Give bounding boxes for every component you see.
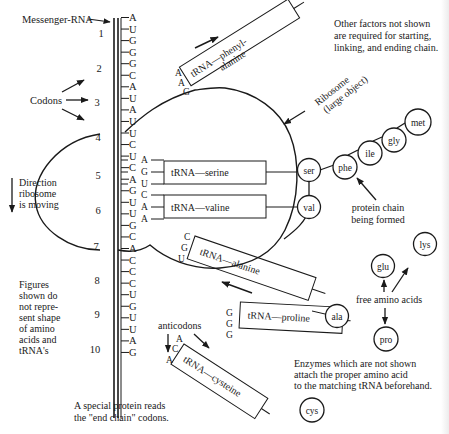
anticodon-serine: A G U bbox=[141, 155, 164, 189]
anticodons-label: anticodons bbox=[158, 320, 201, 331]
svg-text:3: 3 bbox=[94, 97, 99, 108]
svg-text:tRNA—proline: tRNA—proline bbox=[247, 309, 310, 323]
mrna-base: G bbox=[129, 185, 137, 196]
svg-text:G: G bbox=[181, 243, 188, 253]
svg-text:A: A bbox=[176, 334, 183, 344]
svg-text:ala: ala bbox=[331, 312, 343, 322]
svg-text:U: U bbox=[141, 179, 148, 189]
mrna-base: G bbox=[129, 58, 137, 69]
svg-text:to the matching tRNA beforehan: to the matching tRNA beforehand. bbox=[294, 380, 432, 391]
svg-text:6: 6 bbox=[95, 205, 100, 216]
mrna-base: A bbox=[129, 243, 137, 254]
svg-text:A: A bbox=[166, 355, 173, 365]
svg-text:9: 9 bbox=[94, 309, 99, 320]
mrna-base: U bbox=[129, 128, 137, 139]
codons-arrows-icon bbox=[62, 80, 88, 120]
factors-note: Other factors not shown are required for… bbox=[334, 18, 438, 53]
svg-text:C: C bbox=[184, 232, 190, 242]
svg-text:Figures: Figures bbox=[19, 279, 49, 290]
mrna-base: G bbox=[129, 347, 137, 358]
svg-text:Direction: Direction bbox=[19, 177, 57, 188]
direction-label: Direction ribosome is moving bbox=[19, 177, 59, 210]
mrna-base: U bbox=[129, 151, 137, 162]
trna-alanine: tRNA—alanine bbox=[187, 236, 329, 305]
svg-text:G: G bbox=[226, 330, 233, 340]
anticodon-proline: G G G bbox=[226, 308, 233, 340]
mrna-base: A bbox=[129, 12, 137, 23]
svg-text:A: A bbox=[175, 68, 182, 78]
mrna-label: Messenger-RNA bbox=[22, 14, 93, 25]
mrna-base: C bbox=[129, 278, 136, 289]
svg-text:not repre-: not repre- bbox=[19, 301, 58, 312]
mrna-base: A bbox=[129, 335, 137, 346]
svg-text:G: G bbox=[226, 319, 233, 329]
svg-text:cys: cys bbox=[306, 406, 319, 416]
mrna-base: A bbox=[129, 81, 137, 92]
enzymes-note: Enzymes which are not shown attach the p… bbox=[294, 358, 432, 391]
svg-text:is moving: is moving bbox=[19, 199, 59, 210]
incoming-arrow-icon bbox=[195, 37, 218, 48]
svg-text:Enzymes which are not shown: Enzymes which are not shown bbox=[294, 358, 416, 369]
svg-text:C: C bbox=[172, 344, 178, 354]
svg-text:lys: lys bbox=[419, 240, 430, 250]
svg-text:A special protein reads: A special protein reads bbox=[74, 400, 165, 411]
mrna-base: C bbox=[129, 70, 136, 81]
mrna-base: C bbox=[129, 231, 136, 242]
protein-chain-label: protein chain being formed bbox=[351, 202, 405, 225]
svg-text:the "end chain" codons.: the "end chain" codons. bbox=[74, 412, 169, 423]
figures-note: Figures shown do not repre- sent shape o… bbox=[19, 279, 61, 356]
protein-chain-arrow-icon bbox=[357, 178, 376, 200]
svg-text:1: 1 bbox=[98, 28, 103, 39]
mrna-base: C bbox=[129, 255, 136, 266]
mrna-base: G bbox=[129, 47, 137, 58]
mrna-base: A bbox=[129, 174, 137, 185]
mrna-base: G bbox=[129, 35, 137, 46]
svg-text:tRNA—serine: tRNA—serine bbox=[171, 167, 229, 178]
svg-text:G: G bbox=[141, 167, 148, 177]
svg-text:linking, and ending chain.: linking, and ending chain. bbox=[334, 42, 438, 53]
svg-text:of amino: of amino bbox=[19, 323, 55, 334]
svg-text:G: G bbox=[226, 308, 233, 318]
mrna-bases: AUGGGCAUAUUCUCAGUUGCACCCUGUUAG bbox=[121, 12, 137, 358]
svg-text:tRNA's: tRNA's bbox=[19, 345, 49, 356]
svg-text:met: met bbox=[411, 118, 426, 128]
leaving-arrow-icon bbox=[222, 282, 252, 293]
svg-text:8: 8 bbox=[94, 275, 99, 286]
mrna-base: G bbox=[129, 301, 137, 312]
mrna-base: U bbox=[129, 324, 137, 335]
svg-text:A: A bbox=[141, 202, 148, 212]
svg-text:10: 10 bbox=[90, 344, 101, 355]
svg-text:phe: phe bbox=[338, 163, 352, 173]
svg-text:C: C bbox=[141, 190, 147, 200]
svg-text:U: U bbox=[178, 254, 185, 264]
svg-text:attach the proper amino acid: attach the proper amino acid bbox=[294, 369, 408, 380]
mrna-base: U bbox=[129, 116, 137, 127]
codons-label: Codons bbox=[30, 95, 62, 106]
svg-text:val: val bbox=[303, 203, 315, 213]
free-amino-acids-label: free amino acids bbox=[356, 294, 422, 305]
svg-text:A: A bbox=[141, 214, 148, 224]
mrna-strand bbox=[114, 18, 121, 418]
anticodon-valine: C A A bbox=[141, 190, 164, 224]
svg-text:7: 7 bbox=[93, 241, 98, 252]
mrna-base: U bbox=[129, 24, 137, 35]
mrna-base: G bbox=[129, 220, 137, 231]
svg-text:Other factors not shown: Other factors not shown bbox=[334, 18, 430, 29]
mrna-base: C bbox=[129, 266, 136, 277]
mrna-base: U bbox=[129, 208, 137, 219]
svg-text:gly: gly bbox=[388, 136, 400, 146]
mrna-base: U bbox=[129, 312, 137, 323]
svg-text:are required for starting,: are required for starting, bbox=[334, 30, 431, 41]
codon-numbers: 1 2 3 4 5 6 7 8 9 10 bbox=[90, 28, 104, 355]
svg-text:sent shape: sent shape bbox=[19, 312, 61, 323]
svg-text:acids and: acids and bbox=[19, 334, 57, 345]
ribosome-arrow-icon bbox=[284, 111, 305, 124]
ribosome-label: Ribosome (large object) bbox=[312, 65, 370, 117]
svg-text:ribosome: ribosome bbox=[19, 188, 57, 199]
svg-text:shown do: shown do bbox=[19, 290, 58, 301]
svg-text:ile: ile bbox=[365, 149, 375, 159]
mrna-base: U bbox=[129, 93, 137, 104]
svg-text:5: 5 bbox=[95, 170, 100, 181]
mrna-base: U bbox=[129, 289, 137, 300]
svg-text:pro: pro bbox=[380, 335, 393, 345]
